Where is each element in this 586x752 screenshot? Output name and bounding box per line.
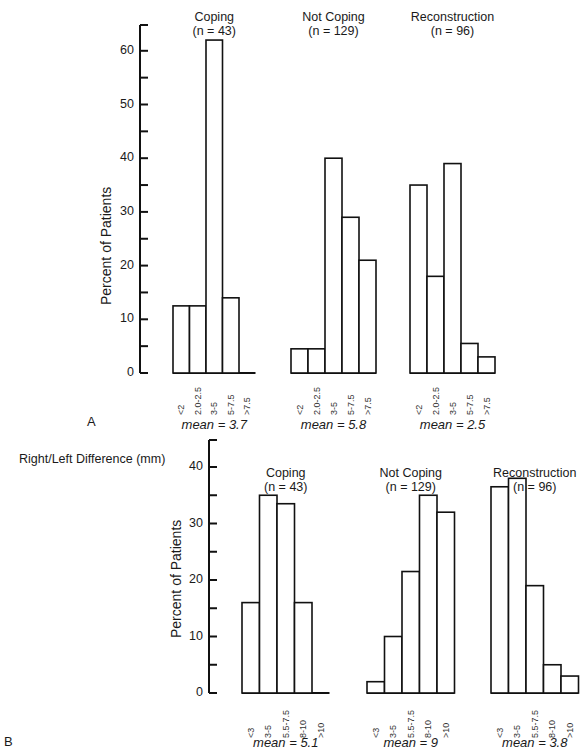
- group-name: Reconstruction: [493, 466, 576, 480]
- mean-label: mean = 3.8: [502, 735, 567, 750]
- chart-svg: [0, 0, 586, 752]
- bar: [526, 586, 544, 693]
- bar: [242, 603, 260, 693]
- group-n: (n = 129): [379, 480, 442, 494]
- bar: [367, 682, 385, 693]
- bar: [544, 665, 562, 693]
- mean-label: mean = 9: [383, 735, 438, 750]
- bar: [509, 478, 527, 693]
- y-tick-label: 20: [179, 572, 203, 586]
- group-title: Reconstruction(n = 96): [493, 466, 576, 494]
- x-tick-label: 5.5-7.5: [406, 710, 416, 738]
- bar: [260, 495, 278, 693]
- group-n: (n = 96): [493, 480, 576, 494]
- y-tick-label: 0: [179, 685, 203, 699]
- group-title: Coping(n = 43): [264, 466, 307, 494]
- group-name: Not Coping: [379, 466, 442, 480]
- bar: [277, 504, 295, 693]
- x-tick-label: 5.5-7.5: [530, 710, 540, 738]
- x-tick-label: >10: [441, 723, 451, 738]
- group-n: (n = 43): [264, 480, 307, 494]
- mean-label: mean = 5.1: [253, 735, 318, 750]
- bar: [491, 487, 509, 693]
- group-title: Not Coping(n = 129): [379, 466, 442, 494]
- y-tick-label: 30: [179, 516, 203, 530]
- bar: [402, 572, 420, 693]
- x-tick-label: <3: [371, 728, 381, 738]
- bar: [437, 512, 455, 693]
- bar: [295, 603, 313, 693]
- y-tick-label: 10: [179, 629, 203, 643]
- x-tick-label: 5.5-7.5: [281, 710, 291, 738]
- group-name: Coping: [264, 466, 307, 480]
- bar: [420, 495, 438, 693]
- y-tick-label: 40: [179, 459, 203, 473]
- bar: [561, 676, 579, 693]
- bar: [385, 637, 403, 694]
